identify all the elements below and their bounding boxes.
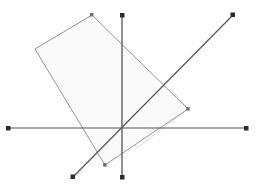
plane-vertex-marker-top	[90, 13, 93, 16]
vertical-axis-top-arrow-icon	[120, 13, 125, 18]
diagonal-axis-lower-arrow-icon	[71, 175, 76, 180]
geometry-figure	[0, 0, 257, 189]
horizontal-axis-left-arrow-icon	[6, 126, 11, 131]
plane-vertex-marker-right	[186, 107, 189, 110]
plane-vertex-marker-bottom	[103, 163, 106, 166]
vertical-axis-bottom-arrow-icon	[120, 175, 125, 180]
figure-canvas	[0, 0, 257, 189]
horizontal-axis-right-arrow-icon	[244, 126, 249, 131]
diagonal-axis-upper-arrow-icon	[231, 13, 236, 18]
